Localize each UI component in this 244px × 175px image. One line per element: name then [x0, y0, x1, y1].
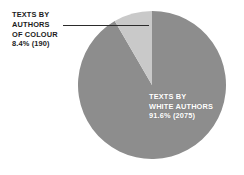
slice-label-authors-of-colour: TEXTS BY AUTHORS OF COLOUR 8.4% (190) [12, 10, 86, 49]
slice-label-line-1: TEXTS BY [149, 92, 235, 102]
slice-label-line-2: WHITE AUTHORS [149, 102, 235, 112]
slice-label-value: 8.4% (190) [12, 39, 86, 49]
slice-label-line-3: OF COLOUR [12, 30, 86, 40]
slice-label-line-1: TEXTS BY [12, 10, 86, 20]
slice-label-line-2: AUTHORS [12, 20, 86, 30]
slice-label-value: 91.6% (2075) [149, 111, 235, 121]
pie-chart-figure: TEXTS BY AUTHORS OF COLOUR 8.4% (190) TE… [0, 0, 244, 175]
pie-svg [78, 11, 226, 159]
slice-label-white-authors: TEXTS BY WHITE AUTHORS 91.6% (2075) [149, 92, 235, 121]
pie-chart-graphic [78, 11, 226, 159]
